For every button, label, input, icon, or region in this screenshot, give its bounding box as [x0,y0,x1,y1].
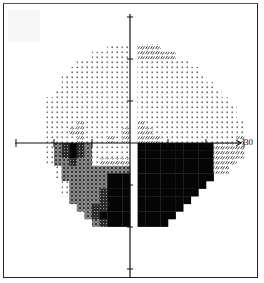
field-cell [206,97,214,105]
field-cell [145,211,153,219]
field-cell [84,75,92,83]
field-cell [206,105,214,113]
field-cell [153,75,161,83]
field-cell [115,113,123,121]
field-cell [77,113,85,121]
field-cell [138,173,146,181]
field-cell [54,97,62,105]
field-cell [160,113,168,121]
field-cell [92,143,100,151]
field-cell [77,97,85,105]
field-cell [69,120,77,128]
field-cell [229,158,237,166]
field-cell [160,52,168,60]
field-cell [62,97,70,105]
field-cell [84,143,92,151]
field-cell [168,151,176,159]
field-cell [54,113,62,121]
field-cell [115,158,123,166]
field-cell [221,128,229,136]
axis-label-30: 30 [244,137,253,147]
field-cell [145,158,153,166]
field-cell [100,173,108,181]
field-cell [138,52,146,60]
field-cell [198,75,206,83]
field-cell [77,196,85,204]
field-cell [69,82,77,90]
field-cell [122,204,130,212]
field-cell [160,166,168,174]
field-cell [191,120,199,128]
field-cell [107,158,115,166]
field-cell [168,135,176,143]
field-cell [160,143,168,151]
field-cell [138,67,146,75]
field-cell [183,97,191,105]
field-cell [160,189,168,197]
field-cell [191,181,199,189]
field-cell [153,196,161,204]
field-cell [122,90,130,98]
field-cell [107,120,115,128]
field-cell [54,128,62,136]
field-cell [84,135,92,143]
field-cell [115,52,123,60]
field-cell [77,151,85,159]
field-cell [176,82,184,90]
field-cell [214,97,222,105]
field-cell [107,219,115,227]
field-cell [145,204,153,212]
field-cell [100,151,108,159]
field-cell [77,59,85,67]
field-cell [122,75,130,83]
field-cell [191,158,199,166]
field-cell [122,173,130,181]
field-cell [138,211,146,219]
field-cell [206,128,214,136]
field-cell [138,204,146,212]
field-cell [62,90,70,98]
field-cell [191,189,199,197]
field-cell [176,151,184,159]
field-cell [100,82,108,90]
field-cell [69,128,77,136]
field-cell [153,97,161,105]
field-cell [168,59,176,67]
field-cell [69,189,77,197]
field-cell [168,173,176,181]
field-cell [84,82,92,90]
field-cell [69,67,77,75]
field-cell [183,158,191,166]
field-cell [153,204,161,212]
field-cell [84,204,92,212]
field-cell [77,189,85,197]
field-cell [221,166,229,174]
field-cell [107,151,115,159]
field-cell [198,113,206,121]
field-cell [92,105,100,113]
field-cell [206,143,214,151]
field-cell [115,75,123,83]
field-cell [198,173,206,181]
field-cell [206,158,214,166]
field-cell [183,113,191,121]
field-cell [62,166,70,174]
field-cell [122,143,130,151]
field-cell [153,120,161,128]
field-cell [183,105,191,113]
field-cell [183,59,191,67]
field-cell [183,67,191,75]
field-cell [84,189,92,197]
field-cell [69,97,77,105]
field-cell [138,82,146,90]
field-cell [168,128,176,136]
field-cell [191,67,199,75]
field-cells [46,44,244,227]
field-cell [107,189,115,197]
field-cell [77,158,85,166]
field-cell [198,166,206,174]
field-cell [92,67,100,75]
field-cell [77,75,85,83]
field-cell [62,158,70,166]
field-cell [115,97,123,105]
